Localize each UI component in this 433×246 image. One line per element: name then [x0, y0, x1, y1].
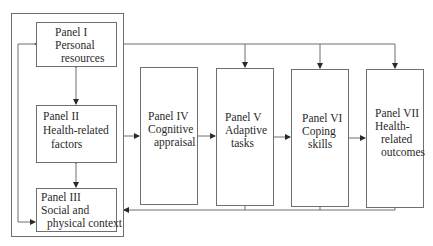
panel-vi-line-2: Coping — [302, 125, 336, 138]
panel-vii-line-1: Panel VII — [375, 107, 419, 120]
panel-i-line-1: Panel I — [55, 26, 87, 39]
panel-iii-social-physical-context: Panel III Social and physical context — [36, 188, 117, 232]
panel-iv-line-2: Cognitive — [148, 123, 193, 136]
panel-vii-line-2: Health- — [375, 120, 409, 133]
panel-v-adaptive-tasks: Panel V Adaptive tasks — [216, 68, 274, 206]
panel-v-line-3: tasks — [231, 137, 254, 150]
panel-ii-line-3: factors — [51, 138, 82, 151]
panel-vi-line-1: Panel VI — [302, 112, 342, 125]
panel-ii-line-2: Health-related — [43, 124, 109, 137]
panel-iv-cognitive-appraisal: Panel IV Cognitive appraisal — [140, 67, 198, 205]
panel-ii-health-related-factors: Panel II Health-related factors — [36, 105, 117, 163]
panel-vii-health-related-outcomes: Panel VII Health- related outcomes — [366, 69, 424, 208]
panel-vi-line-3: skills — [308, 138, 332, 151]
panel-vi-coping-skills: Panel VI Coping skills — [291, 69, 349, 207]
panel-iii-line-2: Social and — [41, 204, 89, 217]
panel-iii-line-1: Panel III — [41, 191, 81, 204]
panel-iv-line-3: appraisal — [154, 136, 196, 149]
panel-v-line-2: Adaptive — [225, 124, 267, 137]
panel-iv-line-1: Panel IV — [148, 110, 189, 123]
panel-vii-line-3: related — [381, 133, 412, 146]
panel-i-personal-resources: Panel I Personal resources — [36, 22, 117, 67]
panel-i-line-3: resources — [61, 52, 104, 65]
panel-ii-line-1: Panel II — [43, 110, 79, 123]
panel-iii-line-3: physical context — [47, 217, 122, 230]
panel-i-line-2: Personal — [55, 39, 95, 52]
panel-v-line-1: Panel V — [225, 111, 262, 124]
panel-vii-line-4: outcomes — [381, 146, 425, 159]
